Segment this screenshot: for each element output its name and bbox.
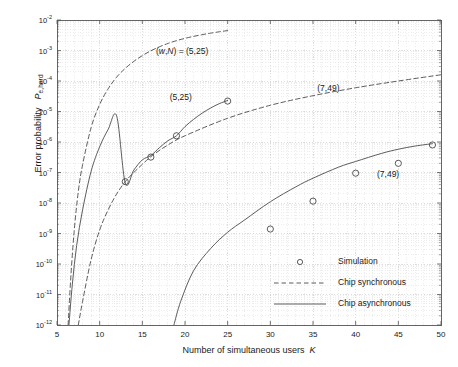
legend-label-0: Simulation: [338, 256, 378, 266]
x-tick-label: 50: [437, 330, 446, 339]
y-tick-label: 10-5: [8, 107, 52, 116]
annotation-2: (7,49): [317, 83, 339, 93]
annotation-3: (7,49): [377, 169, 399, 179]
x-tick-label: 20: [181, 330, 190, 339]
x-axis-label-text: Number of simultaneous users: [182, 345, 304, 355]
x-axis-label: Number of simultaneous users K: [57, 345, 441, 355]
annotation-1: (5,25): [170, 92, 192, 102]
y-tick-label: 10-2: [8, 16, 52, 25]
y-tick-label: 10-8: [8, 199, 52, 208]
y-tick-label: 10-4: [8, 77, 52, 86]
legend-label-2: Chip asynchronous: [338, 298, 411, 308]
x-tick-label: 35: [309, 330, 318, 339]
y-tick-label: 10-12: [8, 321, 52, 330]
x-tick-label: 25: [223, 330, 232, 339]
y-tick-label: 10-10: [8, 260, 52, 269]
chart-figure: Error probability Pe,hard Number of simu…: [0, 0, 458, 367]
x-tick-label: 5: [55, 330, 59, 339]
x-tick-label: 45: [394, 330, 403, 339]
y-tick-label: 10-6: [8, 138, 52, 147]
x-tick-label: 40: [351, 330, 360, 339]
annotation-0: (w,N) = (5,25): [156, 46, 208, 56]
y-tick-label: 10-11: [8, 290, 52, 299]
y-tick-label: 10-7: [8, 168, 52, 177]
plot-area: [0, 0, 458, 367]
x-tick-label: 15: [138, 330, 147, 339]
x-tick-label: 10: [95, 330, 104, 339]
y-tick-label: 10-3: [8, 46, 52, 55]
y-tick-label: 10-9: [8, 229, 52, 238]
legend-label-1: Chip synchronous: [338, 277, 406, 287]
x-tick-label: 30: [266, 330, 275, 339]
